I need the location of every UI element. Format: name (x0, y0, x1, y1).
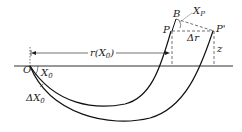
label-delta-r: Δr (186, 32, 200, 43)
arrow-head-left (31, 51, 36, 55)
label-delta-angle: ΔX0 (25, 92, 45, 105)
label-depth-z: z (216, 43, 223, 54)
label-distance: r(X0) (90, 47, 114, 60)
xp-leader (180, 13, 192, 22)
label-point-p-prime: P' (215, 23, 225, 34)
ray-diagram: O X0 ΔX0 r(X0) B XP P P' Δr z (0, 0, 242, 132)
arrow-head-right (165, 51, 170, 55)
label-takeoff-angle: X0 (40, 67, 53, 80)
angle-arc-xp (179, 20, 181, 28)
ray-path-1 (30, 31, 171, 106)
ray-path-2 (30, 31, 213, 121)
label-angle-xp: XP (192, 5, 205, 18)
label-origin: O (23, 64, 31, 75)
b-p-segment (172, 19, 176, 31)
label-point-b: B (172, 8, 180, 19)
label-point-p: P (162, 24, 170, 35)
